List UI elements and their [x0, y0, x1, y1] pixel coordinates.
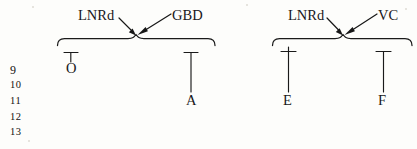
scan-speck	[28, 140, 30, 142]
terminal-label-a: A	[186, 93, 196, 108]
arrow-gbd	[138, 14, 172, 35]
scan-speck	[246, 4, 248, 6]
terminal-label-e: E	[283, 93, 292, 108]
terminal-stem-f	[376, 52, 391, 93]
annotation-label-lnrd-right: LNRd	[288, 8, 324, 23]
arrow-lnrd-right	[327, 18, 343, 36]
terminal-stem-a	[184, 53, 198, 93]
arrow-lnrd-left	[119, 18, 136, 36]
line-number-gutter: 9 10 11 12 13	[0, 0, 40, 149]
line-number: 12	[10, 112, 22, 123]
line-number: 13	[10, 127, 22, 138]
arrow-vc	[345, 14, 378, 35]
brace-right-group	[273, 35, 413, 46]
line-number: 9	[10, 64, 17, 76]
line-number: 11	[10, 96, 21, 107]
brace-left-group	[58, 35, 216, 46]
annotation-label-vc: VC	[378, 8, 398, 23]
bracket-diagram-figure: 9 10 11 12 13 LNRd GBD LNRd VC O A E F	[0, 0, 417, 149]
annotation-label-lnrd-left: LNRd	[78, 8, 114, 23]
annotation-label-gbd: GBD	[172, 8, 203, 23]
line-number: 10	[10, 80, 22, 91]
terminal-stem-e	[281, 47, 296, 92]
terminal-label-o: O	[66, 61, 76, 76]
scan-speck	[32, 6, 34, 8]
terminal-label-f: F	[378, 93, 386, 108]
diagram-strokes	[0, 0, 417, 149]
scan-speck	[405, 8, 407, 10]
